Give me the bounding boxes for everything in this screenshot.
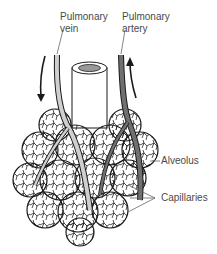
vein-flow-arrow-icon [37, 56, 45, 102]
alveolus-label: Alveolus [161, 155, 199, 167]
pulmonary-vein-label-line1: Pulmonary [60, 11, 108, 23]
alveolus-illustration [0, 0, 217, 254]
artery-flow-arrow-icon [126, 57, 136, 98]
pulmonary-artery-label-line2: artery [122, 23, 148, 35]
capillaries-label: Capillaries [161, 192, 208, 204]
pulmonary-vein-label-line2: vein [60, 23, 78, 35]
pulmonary-artery-label-line1: Pulmonary [122, 11, 170, 23]
alveolus-diagram: Pulmonary vein Pulmonary artery Alveolus… [0, 0, 217, 254]
bronchiole [72, 62, 107, 128]
